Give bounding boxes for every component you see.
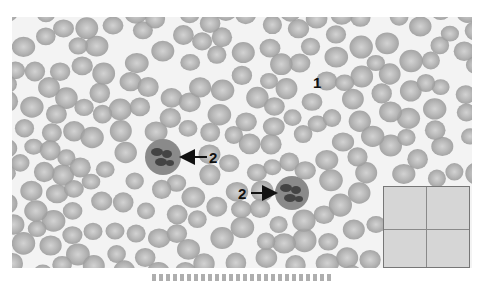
caption-truncated-text bbox=[152, 274, 332, 281]
inset-horizontal-divider bbox=[384, 229, 469, 230]
figure-caption bbox=[0, 271, 482, 281]
grid-inset bbox=[383, 186, 470, 268]
inset-vertical-divider bbox=[426, 187, 427, 267]
